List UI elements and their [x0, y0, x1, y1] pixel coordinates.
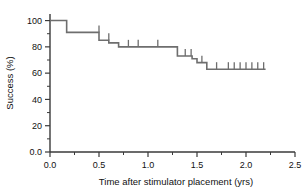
y-tick-label: 80	[32, 42, 42, 52]
y-tick-label: 60	[32, 68, 42, 78]
x-axis-tick-labels: 0.00.51.01.52.02.5	[44, 160, 302, 170]
y-tick-label: 20	[32, 121, 42, 131]
y-tick-label: 100	[27, 16, 42, 26]
plot-area: 0.00.51.01.52.02.5 0.020406080100	[27, 14, 301, 170]
y-axis-tick-labels: 0.020406080100	[27, 16, 42, 157]
x-tick-label: 2.0	[240, 160, 253, 170]
chart-canvas: 0.00.51.01.52.02.5 0.020406080100 Time a…	[0, 0, 306, 190]
x-tick-label: 2.5	[289, 160, 302, 170]
x-tick-label: 1.5	[191, 160, 204, 170]
y-tick-label: 0.0	[29, 147, 42, 157]
kaplan-meier-chart: 0.00.51.01.52.02.5 0.020406080100 Time a…	[0, 0, 306, 190]
x-tick-label: 0.0	[44, 160, 57, 170]
y-tick-label: 40	[32, 95, 42, 105]
x-axis-ticks	[50, 152, 295, 157]
y-axis-title: Success (%)	[4, 56, 15, 109]
x-axis-title: Time after stimulator placement (yrs)	[99, 176, 253, 187]
x-tick-label: 0.5	[93, 160, 106, 170]
y-axis-ticks	[45, 21, 50, 152]
x-tick-label: 1.0	[142, 160, 155, 170]
